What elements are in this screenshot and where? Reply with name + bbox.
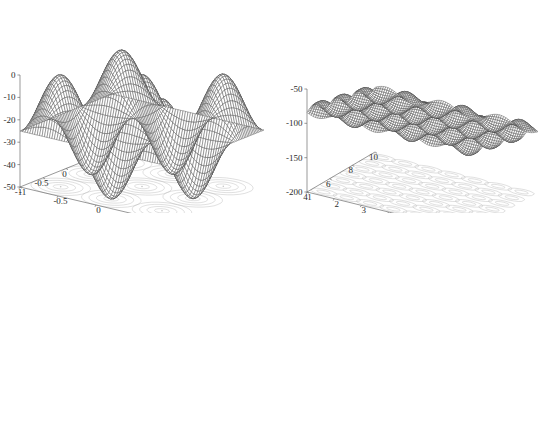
contour-projection (311, 154, 535, 213)
contour-ring (449, 190, 463, 194)
contour-ring (468, 179, 482, 183)
contour-ring (350, 190, 364, 194)
contour-ring (336, 179, 350, 183)
contour-ring (462, 202, 476, 206)
contour-ring (439, 196, 453, 200)
contour-ring (486, 207, 500, 211)
contour-ring (392, 160, 419, 168)
contour-ring (356, 167, 370, 171)
z-tick-label: -50 (291, 84, 303, 94)
contour-ring (429, 202, 443, 206)
z-tick-label: -40 (4, 160, 16, 170)
y-axis-line (307, 192, 470, 213)
contour-center (60, 186, 62, 188)
plot-svg-bottom-right: -20-30-40-50-60-70-80-3-3.5-4-4.5-533.54… (275, 213, 549, 426)
contour-center (141, 186, 143, 188)
surface-plot-figure: 0-10-20-30-40-5010.50-0.5-1-1-0.500.51 -… (0, 0, 549, 426)
contour-ring (482, 190, 496, 194)
y-tick-label: 0 (96, 205, 101, 213)
z-tick-label: -200 (286, 187, 303, 197)
contour-center (161, 210, 163, 212)
contour-ring (495, 202, 509, 206)
z-tick-label: -150 (286, 153, 303, 163)
y-tick-label: 1 (307, 192, 312, 202)
y-tick-label: -1 (19, 187, 27, 197)
contour-ring (379, 173, 393, 177)
surface-mesh (307, 86, 538, 155)
contour-ring (515, 190, 529, 194)
plot-panel-bottom-right: -20-30-40-50-60-70-80-3-3.5-4-4.5-533.54… (275, 213, 549, 426)
contour-ring (392, 184, 406, 188)
contour-ring (396, 202, 410, 206)
z-tick-label: -100 (286, 118, 303, 128)
y-tick-label: -0.5 (53, 196, 68, 206)
z-tick-label: -10 (4, 92, 16, 102)
contour-ring (340, 196, 354, 200)
contour-ring (453, 207, 467, 211)
z-tick-label: -20 (4, 115, 16, 125)
contour-ring (369, 179, 383, 183)
x-tick-label: -0.5 (34, 178, 49, 188)
plot-svg-bottom-left: 0-20-40-60-80-10050-5-505 (0, 213, 275, 426)
contour-ring (420, 207, 434, 211)
plot-panel-top-left: 0-10-20-30-40-5010.50-0.5-1-1-0.500.51 (0, 0, 275, 213)
contour-ring (458, 184, 472, 188)
contour-ring (317, 190, 331, 194)
contour-ring (472, 196, 486, 200)
plot-panel-bottom-left: 0-20-40-60-80-10050-5-505 (0, 213, 275, 426)
y-tick-label: 3 (362, 205, 367, 213)
contour-center (223, 185, 225, 187)
plot-svg-top-left: 0-10-20-30-40-5010.50-0.5-1-1-0.500.51 (0, 0, 275, 213)
z-tick-label: -30 (4, 137, 16, 147)
x-tick-label: 10 (369, 152, 379, 162)
x-axis-line (307, 152, 375, 192)
x-tick-label: 6 (326, 179, 331, 189)
contour-ring (435, 179, 449, 183)
contour-ring (387, 207, 401, 211)
contour-ring (425, 184, 439, 188)
contour-ring (402, 179, 416, 183)
z-tick-label: 0 (11, 70, 16, 80)
x-tick-label: 0 (62, 169, 67, 179)
surface-mesh (20, 50, 264, 199)
contour-ring (389, 167, 403, 171)
contour-ring (445, 173, 459, 177)
contour-ring (359, 184, 373, 188)
contour-ring (412, 173, 426, 177)
contour-ring (505, 196, 519, 200)
contour-ring (491, 184, 505, 188)
contour-ring (383, 190, 397, 194)
contour-ring (365, 162, 379, 166)
plot-svg-top-right: -50-100-150-200108641234567 (275, 0, 549, 213)
contour-ring (398, 162, 412, 166)
contour-ring (406, 196, 420, 200)
contour-ring (422, 167, 436, 171)
y-tick-label: 2 (334, 199, 339, 209)
x-tick-label: 8 (349, 165, 354, 175)
contour-ring (373, 196, 387, 200)
contour-ring (416, 190, 430, 194)
plot-panel-top-right: -50-100-150-200108641234567 (275, 0, 549, 213)
